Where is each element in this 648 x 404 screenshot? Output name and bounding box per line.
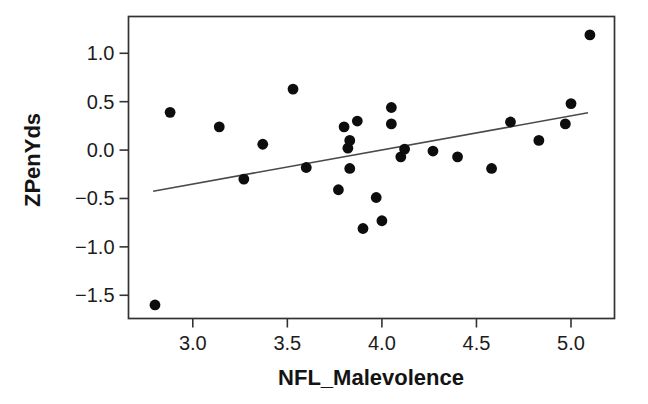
plot-frame	[129, 17, 615, 319]
data-point	[533, 135, 544, 146]
scatter-plot-figure: 3.03.54.04.55.01.00.50.0−0.5−1.0−1.5 NFL…	[0, 0, 648, 404]
y-tick-label: 1.0	[87, 42, 115, 64]
data-point	[377, 215, 388, 226]
x-axis-title: NFL_Malevolence	[278, 365, 464, 390]
data-point	[344, 135, 355, 146]
data-point	[344, 163, 355, 174]
data-point	[452, 151, 463, 162]
scatter-plot: 3.03.54.04.55.01.00.50.0−0.5−1.0−1.5 NFL…	[0, 0, 648, 404]
data-point	[371, 192, 382, 203]
y-tick-label: −0.5	[75, 187, 114, 209]
data-point	[339, 121, 350, 132]
x-tick-label: 3.0	[179, 332, 207, 354]
data-point	[301, 162, 312, 173]
data-point	[386, 102, 397, 113]
data-point	[428, 146, 439, 157]
plot-layer: 3.03.54.04.55.01.00.50.0−0.5−1.0−1.5	[75, 17, 614, 354]
x-tick-label: 4.5	[463, 332, 491, 354]
data-point	[150, 300, 161, 311]
data-point	[399, 144, 410, 155]
x-tick-label: 4.0	[368, 332, 396, 354]
y-tick-label: −1.5	[75, 284, 114, 306]
data-point	[238, 174, 249, 185]
data-point	[585, 29, 596, 40]
y-axis-title: ZPenYds	[20, 113, 45, 207]
data-point	[288, 84, 299, 95]
data-point	[505, 117, 516, 128]
data-point	[214, 121, 225, 132]
data-point	[333, 184, 344, 195]
data-point	[257, 139, 268, 150]
data-point	[486, 163, 497, 174]
data-point	[165, 107, 176, 118]
data-point	[566, 98, 577, 109]
y-tick-label: −1.0	[75, 236, 114, 258]
data-point	[560, 119, 571, 130]
data-point	[358, 223, 369, 234]
x-tick-label: 5.0	[557, 332, 585, 354]
x-tick-label: 3.5	[273, 332, 301, 354]
data-point	[386, 119, 397, 130]
data-point	[352, 116, 363, 127]
y-tick-label: 0.0	[87, 139, 115, 161]
y-tick-label: 0.5	[87, 91, 115, 113]
